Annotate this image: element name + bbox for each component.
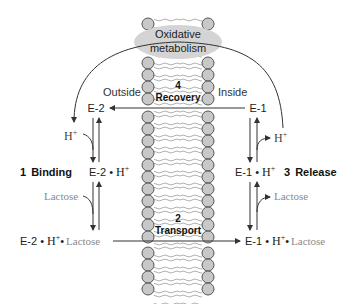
membrane-left-leaflet [142, 18, 154, 295]
membrane-right-leaflet [202, 18, 214, 295]
energy-source-line1: Oxidative [155, 28, 201, 40]
state-e2: E-2 [87, 102, 104, 114]
step-3: 3Release [284, 166, 337, 178]
step-4-number: 4 [175, 80, 181, 91]
state-e2-h: E-2•H+ [89, 164, 130, 179]
state-e1-h: E-1•H+ [235, 164, 276, 179]
step-2-label: Transport [155, 225, 202, 236]
lactose-inside: Lactose [274, 190, 308, 202]
proton-inside-release-arrow [257, 138, 270, 150]
membrane-tails [154, 18, 202, 304]
state-e1: E-1 [249, 102, 266, 114]
step-2-number: 2 [175, 213, 181, 224]
inside-label: Inside [218, 86, 247, 98]
lactose-transport-diagram: Oxidative metabolism Outside Inside 4 Re… [0, 0, 350, 304]
outside-label: Outside [103, 86, 141, 98]
proton-outside: H+ [64, 128, 78, 143]
state-e2-h-lactose: E-2•H+•Lactose [20, 233, 100, 248]
step-4-label: Recovery [155, 92, 200, 103]
proton-inside: H+ [274, 130, 288, 145]
proton-outside-join-arrow [83, 134, 93, 150]
lactose-outside-join-arrow [83, 196, 93, 214]
lactose-outside: Lactose [44, 190, 78, 202]
state-e1-h-lactose: E-1•H+•Lactose [245, 233, 325, 248]
lactose-inside-release-arrow [257, 197, 270, 212]
step-1: 1Binding [20, 166, 72, 178]
